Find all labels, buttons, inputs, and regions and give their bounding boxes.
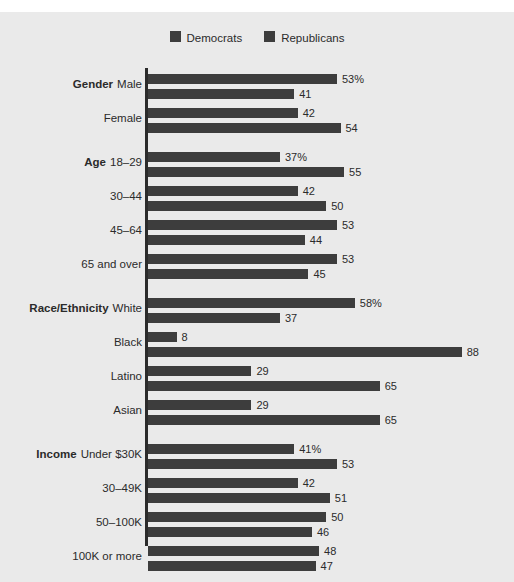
category-label: 65 and over [81, 258, 142, 270]
bar-row: GenderMale53%41 [0, 70, 514, 104]
category-label: Latino [111, 370, 142, 382]
bar-democrats: 41% [148, 444, 294, 454]
bar-republicans: 65 [148, 415, 380, 425]
bar-value-label: 37 [285, 312, 297, 324]
category-label: Male [117, 78, 142, 90]
bar-democrats: 29 [148, 366, 251, 376]
bar-row: 30–49K4251 [0, 474, 514, 508]
bar-republicans: 37 [148, 313, 280, 323]
bar-democrats: 37% [148, 152, 280, 162]
bar-value-label: 55 [349, 166, 361, 178]
bar-row: Black888 [0, 328, 514, 362]
bar-row: Female4254 [0, 104, 514, 138]
bar-republicans: 51 [148, 493, 330, 503]
row-label: 45–64 [0, 224, 142, 236]
row-label: Female [0, 112, 142, 124]
bar-row: IncomeUnder $30K41%53 [0, 440, 514, 474]
bar-value-label: 45 [313, 268, 325, 280]
bar-democrats: 50 [148, 512, 326, 522]
category-label: 50–100K [96, 516, 142, 528]
bar-democrats: 29 [148, 400, 251, 410]
bar-row: 30–444250 [0, 182, 514, 216]
row-label: GenderMale [0, 78, 142, 90]
bar-value-label: 58% [360, 297, 382, 309]
category-label: Asian [113, 404, 142, 416]
bar-value-label: 51 [335, 492, 347, 504]
bar-value-label: 41 [299, 88, 311, 100]
bar-democrats: 53 [148, 254, 337, 264]
bar-value-label: 53 [342, 219, 354, 231]
group-name-label: Age [84, 156, 106, 168]
bar-democrats: 42 [148, 108, 298, 118]
bar-republicans: 41 [148, 89, 294, 99]
bar-democrats: 42 [148, 478, 298, 488]
bar-value-label: 65 [385, 380, 397, 392]
bar-democrats: 42 [148, 186, 298, 196]
bar-republicans: 46 [148, 527, 312, 537]
bar-row: 65 and over5345 [0, 250, 514, 284]
bar-value-label: 53 [342, 458, 354, 470]
row-label: Black [0, 336, 142, 348]
bar-republicans: 54 [148, 123, 341, 133]
bar-value-label: 48 [324, 545, 336, 557]
bar-republicans: 65 [148, 381, 380, 391]
row-label: Latino [0, 370, 142, 382]
row-label: 30–49K [0, 482, 142, 494]
bar-value-label: 37% [285, 151, 307, 163]
bar-democrats: 8 [148, 332, 177, 342]
group-name-label: Race/Ethnicity [29, 302, 108, 314]
row-label: 30–44 [0, 190, 142, 202]
category-label: White [113, 302, 142, 314]
category-label: Under $30K [81, 448, 142, 460]
bar-republicans: 53 [148, 459, 337, 469]
category-label: 100K or more [72, 550, 142, 562]
row-label: IncomeUnder $30K [0, 448, 142, 460]
plot-area: GenderMale53%41Female4254Age18–2937%5530… [0, 0, 514, 582]
bar-value-label: 46 [317, 526, 329, 538]
group-race-ethnicity: Race/EthnicityWhite58%37Black888Latino29… [0, 294, 514, 430]
bar-republicans: 44 [148, 235, 305, 245]
group-gender: GenderMale53%41Female4254 [0, 70, 514, 138]
category-label: Female [104, 112, 142, 124]
category-label: 45–64 [110, 224, 142, 236]
bar-republicans: 45 [148, 269, 308, 279]
group-name-label: Gender [73, 78, 113, 90]
bar-row: 45–645344 [0, 216, 514, 250]
row-label: 50–100K [0, 516, 142, 528]
row-label: Race/EthnicityWhite [0, 302, 142, 314]
bar-row: Latino2965 [0, 362, 514, 396]
bar-row: 50–100K5046 [0, 508, 514, 542]
bar-value-label: 50 [331, 200, 343, 212]
bar-value-label: 8 [182, 331, 188, 343]
bar-value-label: 42 [303, 107, 315, 119]
bar-value-label: 41% [299, 443, 321, 455]
row-label: Age18–29 [0, 156, 142, 168]
bar-row: Asian2965 [0, 396, 514, 430]
bar-value-label: 54 [346, 122, 358, 134]
row-label: Asian [0, 404, 142, 416]
bar-value-label: 53 [342, 253, 354, 265]
bar-democrats: 53 [148, 220, 337, 230]
bar-value-label: 50 [331, 511, 343, 523]
category-label: 30–44 [110, 190, 142, 202]
chart-container: DemocratsRepublicans GenderMale53%41Fema… [0, 0, 514, 582]
bar-value-label: 42 [303, 477, 315, 489]
group-age: Age18–2937%5530–44425045–64534465 and ov… [0, 148, 514, 284]
group-name-label: Income [36, 448, 76, 460]
bar-value-label: 88 [467, 346, 479, 358]
category-label: Black [114, 336, 142, 348]
bar-row: 100K or more4847 [0, 542, 514, 576]
bar-value-label: 29 [256, 399, 268, 411]
row-label: 100K or more [0, 550, 142, 562]
bar-row: Race/EthnicityWhite58%37 [0, 294, 514, 328]
bar-republicans: 55 [148, 167, 344, 177]
bar-democrats: 48 [148, 546, 319, 556]
bar-value-label: 44 [310, 234, 322, 246]
group-income: IncomeUnder $30K41%5330–49K425150–100K50… [0, 440, 514, 576]
bar-row: Age18–2937%55 [0, 148, 514, 182]
category-label: 18–29 [110, 156, 142, 168]
bar-republicans: 47 [148, 561, 316, 571]
bar-value-label: 65 [385, 414, 397, 426]
category-label: 30–49K [102, 482, 142, 494]
bar-value-label: 47 [321, 560, 333, 572]
